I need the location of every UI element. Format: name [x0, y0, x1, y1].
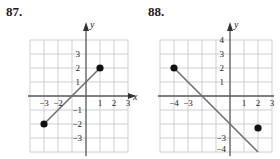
- y-axis-label-88: y: [233, 19, 239, 30]
- y-tick-label-2-88: 2: [220, 63, 225, 73]
- y-tick-label--1-87: −1: [72, 105, 82, 115]
- endpoint-dot-right-87: [96, 64, 103, 71]
- y-tick-label-4-88: 4: [220, 35, 225, 45]
- y-tick-label--4-88: −4: [216, 144, 226, 154]
- x-tick-label--3-87: −3: [39, 98, 49, 108]
- plot-88: −4 −3 1 2 3 4 3 2 1 −3 −4 y: [140, 0, 280, 159]
- y-tick-label-2-87: 2: [76, 63, 81, 73]
- x-tick-label--2-87: −2: [53, 98, 63, 108]
- y-tick-label-3-88: 3: [220, 49, 225, 59]
- figure-88: 88.: [140, 0, 280, 159]
- x-tick-label-3-87: 3: [126, 98, 131, 108]
- x-tick-label-2-87: 2: [112, 98, 117, 108]
- coordinate-plane-87: −3 −2 1 2 3 3 2 1 −1 −2 −3 y x: [0, 0, 140, 159]
- x-tick-label-2-88: 2: [256, 98, 261, 108]
- y-axis-label-87: y: [89, 19, 95, 30]
- x-tick-label-3-88: 3: [270, 98, 275, 108]
- x-tick-label-1-87: 1: [98, 98, 103, 108]
- x-tick-label-1-88: 1: [242, 98, 247, 108]
- y-tick-label-1-88: 1: [220, 77, 225, 87]
- y-axis-arrow-87: [83, 22, 89, 31]
- x-axis-label-87: x: [132, 91, 138, 102]
- plot-87: −3 −2 1 2 3 3 2 1 −1 −2 −3 y x: [0, 0, 140, 159]
- y-tick-label--2-87: −2: [72, 119, 82, 129]
- coordinate-plane-88: −4 −3 1 2 3 4 3 2 1 −3 −4 y: [140, 0, 280, 159]
- y-tick-label--3-87: −3: [72, 133, 82, 143]
- tick-labels-88: −4 −3 1 2 3 4 3 2 1 −3 −4: [169, 35, 275, 154]
- y-tick-label--3-88: −3: [216, 133, 226, 143]
- x-tick-label--3-88: −3: [183, 98, 193, 108]
- y-tick-label-1-87: 1: [76, 77, 81, 87]
- endpoint-dot-left-88: [170, 64, 177, 71]
- y-tick-label-3-87: 3: [76, 49, 81, 59]
- endpoint-dot-left-87: [40, 120, 47, 127]
- x-tick-label--4-88: −4: [169, 98, 179, 108]
- endpoint-dot-right-88: [254, 124, 261, 131]
- y-axis-arrow-88: [227, 22, 233, 31]
- figure-87: 87.: [0, 0, 140, 159]
